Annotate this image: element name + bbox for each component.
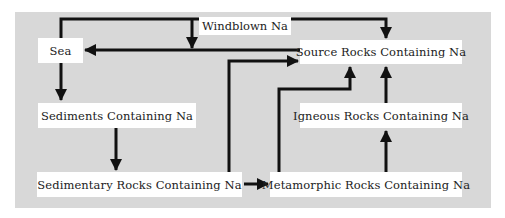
node-sea: Sea [38, 38, 83, 63]
node-metamorphic-rocks: Metamorphic Rocks Containing Na [270, 172, 462, 197]
node-sedimentary-rocks: Sedimentary Rocks Containing Na [37, 172, 242, 197]
node-igneous-rocks: Igneous Rocks Containing Na [300, 103, 462, 128]
windblown-na-label: Windblown Na [199, 17, 291, 35]
arrow-sedimentary-to-source [229, 61, 298, 172]
node-sediments: Sediments Containing Na [38, 103, 196, 128]
node-source-rocks: Source Rocks Containing Na [300, 40, 462, 64]
